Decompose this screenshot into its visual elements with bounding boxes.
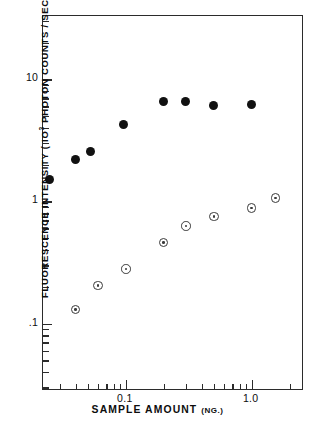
x-axis-title: SAMPLE AMOUNT (NG.) xyxy=(0,404,315,415)
data-point-open-circle-dot xyxy=(93,281,103,291)
data-point-open-circle-dot xyxy=(209,212,219,222)
data-point-open-circle-dot xyxy=(271,193,281,203)
x-axis-title-unit: (NG.) xyxy=(201,406,223,415)
plot-frame xyxy=(42,15,303,390)
data-point-open-circle-dot xyxy=(121,264,131,274)
x-axis-tick-label: 0.1 xyxy=(105,392,145,404)
series-open-circles xyxy=(43,16,302,389)
data-point-open-circle-dot xyxy=(247,203,257,213)
y-axis-title: FLUORESCENCE INTENSITY ( IO3 PHOTON COUN… xyxy=(38,8,50,298)
x-axis-tick-label: 1.0 xyxy=(231,392,271,404)
data-point-open-circle-dot xyxy=(159,238,169,248)
y-axis-tick-label: 10 xyxy=(8,71,38,83)
x-axis-title-main: SAMPLE AMOUNT xyxy=(92,404,198,415)
y-axis-tick-label: .1 xyxy=(8,316,38,328)
y-axis-tick-label: 1 xyxy=(8,193,38,205)
y-axis-title-post: PHOTON COUNTS / SEC.) xyxy=(39,0,50,126)
y-axis-title-exponent: 3 xyxy=(38,126,45,130)
figure-canvas: 101.1 0.11.0 FLUORESCENCE INTENSITY ( IO… xyxy=(0,0,315,431)
y-axis-title-pre: FLUORESCENCE INTENSITY ( IO xyxy=(39,131,50,299)
data-point-open-circle-dot xyxy=(71,305,81,315)
data-point-open-circle-dot xyxy=(181,221,191,231)
